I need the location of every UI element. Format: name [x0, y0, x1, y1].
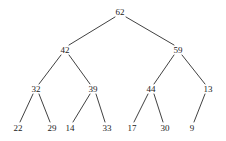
tree-node-29: 29 [48, 124, 57, 133]
tree-node-13: 13 [204, 85, 213, 94]
tree-node-59: 59 [174, 46, 183, 55]
tree-edge-n42-n32 [39, 55, 61, 84]
tree-node-14: 14 [66, 124, 75, 133]
tree-edge-n59-n13 [182, 55, 205, 84]
tree-edge-layer [0, 0, 226, 141]
tree-node-39: 39 [89, 85, 98, 94]
tree-edge-n32-n29 [39, 94, 50, 122]
tree-edge-n44-n30 [154, 94, 163, 122]
tree-node-9: 9 [190, 124, 195, 133]
tree-node-32: 32 [32, 85, 41, 94]
tree-edge-n39-n14 [73, 94, 90, 122]
binary-tree-diagram: 624259323944132229143317309 [0, 0, 226, 141]
tree-edge-n62-n59 [126, 17, 174, 45]
tree-node-44: 44 [147, 85, 156, 94]
tree-edge-n44-n17 [134, 94, 148, 122]
tree-node-22: 22 [14, 124, 23, 133]
tree-node-33: 33 [103, 124, 112, 133]
tree-edge-n32-n22 [20, 94, 33, 122]
tree-node-30: 30 [161, 124, 170, 133]
tree-node-17: 17 [128, 124, 137, 133]
tree-node-62: 62 [116, 8, 125, 17]
tree-edge-n42-n39 [69, 55, 90, 84]
tree-edge-n39-n33 [96, 94, 105, 122]
tree-edge-n13-n9 [194, 94, 205, 122]
tree-node-42: 42 [61, 46, 70, 55]
tree-edge-n59-n44 [154, 55, 174, 84]
tree-edge-n62-n42 [69, 17, 115, 45]
